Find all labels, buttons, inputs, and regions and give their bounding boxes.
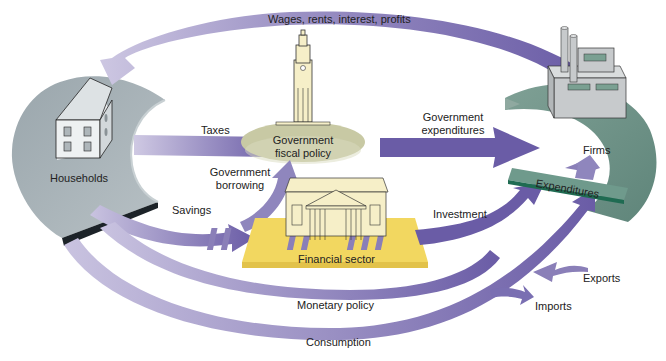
gov-expenditures-label-line1: Government <box>413 111 493 124</box>
monetary-policy-label: Monetary policy <box>297 299 374 312</box>
government-label: Government fiscal policy <box>270 134 336 160</box>
consumption-label: Consumption <box>306 336 371 349</box>
savings-label: Savings <box>172 204 211 217</box>
bank-building-icon <box>285 178 388 240</box>
financial-sector-label: Financial sector <box>298 253 375 266</box>
investment-label: Investment <box>433 208 487 221</box>
exports-label: Exports <box>583 272 620 285</box>
firms-label: Firms <box>583 144 611 157</box>
government-label-line1: Government <box>270 134 336 147</box>
wages-label: Wages, rents, interest, profits <box>268 13 411 26</box>
households-label: Households <box>50 172 108 185</box>
exports-flow-arrow <box>533 262 588 282</box>
taxes-label: Taxes <box>201 124 230 137</box>
gov-borrowing-label-line1: Government <box>206 166 274 179</box>
government-label-line2: fiscal policy <box>270 147 336 160</box>
factory-icon <box>548 27 626 119</box>
gov-expenditures-label-line2: expenditures <box>413 124 493 137</box>
gov-borrowing-label: Government borrowing <box>206 166 274 192</box>
gov-borrowing-label-line2: borrowing <box>206 179 274 192</box>
imports-label: Imports <box>535 300 572 313</box>
gov-expenditures-label: Government expenditures <box>413 111 493 137</box>
government-tower-icon <box>276 30 330 125</box>
